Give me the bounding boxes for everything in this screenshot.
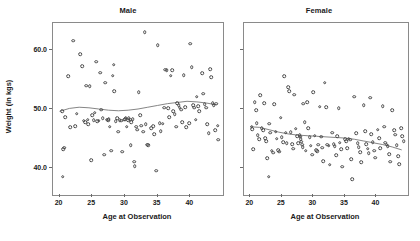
y-tick-label: 50.0 <box>22 105 47 112</box>
scatter-point <box>112 63 116 67</box>
scatter-point <box>351 177 355 181</box>
scatter-point <box>187 121 191 125</box>
scatter-point <box>155 169 159 173</box>
scatter-point <box>399 126 403 130</box>
scatter-point <box>185 126 189 130</box>
scatter-point <box>202 92 206 96</box>
scatter-point <box>252 148 256 152</box>
scatter-point <box>327 144 331 148</box>
scatter-point <box>280 136 284 140</box>
x-tick-label: 20 <box>245 199 253 206</box>
scatter-point <box>368 96 372 100</box>
x-tick-mark <box>249 194 250 197</box>
scatter-point <box>401 134 405 138</box>
scatter-point <box>107 117 111 121</box>
scatter-point <box>373 156 377 160</box>
x-tick-mark <box>312 194 313 197</box>
scatter-point <box>267 122 271 126</box>
scatter-point <box>288 89 292 93</box>
x-tick-label: 40 <box>185 199 193 206</box>
x-axis-title: Age at Observation <box>243 212 407 221</box>
scatter-point <box>208 67 212 71</box>
plot-area-female <box>243 22 409 196</box>
scatter-point <box>170 69 174 73</box>
scatter-point <box>94 60 98 64</box>
scatter-point <box>382 125 386 129</box>
scatter-point <box>60 110 64 114</box>
scatter-point <box>73 124 77 128</box>
scatter-point <box>174 125 178 129</box>
scatter-point <box>275 137 279 141</box>
scatter-point <box>353 95 357 99</box>
scatter-point <box>81 64 85 68</box>
scatter-point <box>315 149 319 153</box>
scatter-point <box>304 149 308 153</box>
scatter-point <box>303 120 307 124</box>
scatter-point <box>179 108 183 112</box>
scatter-point <box>336 134 340 138</box>
scatter-point <box>131 117 135 121</box>
scatter-point <box>389 160 393 164</box>
scatter-point <box>61 175 65 179</box>
scatter-point <box>293 93 297 97</box>
scatter-point <box>274 130 278 134</box>
panel-female: Female 2025303540Age at Observation <box>221 6 417 238</box>
y-tick-mark <box>49 108 52 109</box>
scatter-point <box>195 95 199 99</box>
scatter-point <box>93 111 97 115</box>
scatter-point <box>308 136 312 140</box>
scatter-point <box>358 150 362 154</box>
scatter-point <box>366 147 370 151</box>
scatter-point <box>108 125 112 129</box>
scatter-point <box>324 105 328 109</box>
scatter-point <box>141 130 145 134</box>
scatter-point <box>215 102 219 106</box>
scatter-point <box>272 102 276 106</box>
scatter-point <box>166 107 170 111</box>
scatter-point <box>309 144 313 148</box>
scatter-point <box>136 128 140 132</box>
x-tick-mark <box>344 194 345 197</box>
scatter-point <box>66 75 70 79</box>
scatter-point <box>349 158 353 162</box>
scatter-point <box>79 53 83 57</box>
scatter-point <box>111 74 115 78</box>
scatter-point <box>159 129 163 133</box>
scatter-point <box>318 105 322 109</box>
scatter-point <box>346 146 350 150</box>
scatter-point <box>138 113 142 117</box>
scatter-point <box>189 42 193 46</box>
x-tick-label: 25 <box>87 199 95 206</box>
scatter-point <box>181 120 185 124</box>
scatter-point <box>278 150 282 154</box>
scatter-point <box>341 165 345 169</box>
scatter-point <box>182 73 186 77</box>
scatter-point <box>64 116 68 120</box>
x-tick-label: 35 <box>340 199 348 206</box>
scatter-point <box>322 159 326 163</box>
y-tick-label: 60.0 <box>22 45 47 52</box>
scatter-point <box>266 156 270 160</box>
scatter-point <box>204 106 208 110</box>
scatter-point <box>320 146 324 150</box>
y-tick-mark <box>240 49 243 50</box>
scatter-point <box>339 148 343 152</box>
scatter-point <box>387 152 391 156</box>
scatter-point <box>390 108 394 112</box>
scatter-point <box>261 129 265 133</box>
scatter-point <box>209 75 213 79</box>
scatter-point <box>102 153 106 157</box>
scatter-point <box>190 66 194 70</box>
scatter-point <box>271 151 275 155</box>
scatter-point <box>207 132 211 136</box>
scatter-point <box>333 145 337 149</box>
scatter-point <box>87 123 91 127</box>
scatter-point <box>200 72 204 76</box>
scatter-point <box>161 122 165 126</box>
y-tick-mark <box>240 167 243 168</box>
scatter-point <box>386 145 390 149</box>
scatter-point <box>310 153 314 157</box>
panel-title-male: Male <box>30 6 226 15</box>
y-tick-mark <box>240 108 243 109</box>
y-tick-mark <box>49 167 52 168</box>
